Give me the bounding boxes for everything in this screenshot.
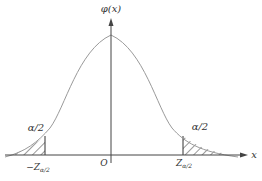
right-cutoff-label: Zα/2: [175, 158, 192, 169]
origin-label: O: [100, 158, 108, 168]
normal-distribution-diagram: φ(x) x O α/2 α/2 −Zα/2 Zα/2: [0, 0, 262, 181]
left-cutoff-label: −Zα/2: [26, 162, 50, 173]
bell-curve: [5, 35, 238, 157]
x-axis-arrow-icon: [240, 153, 248, 158]
y-axis-label: φ(x): [101, 3, 122, 14]
y-axis-arrow-icon: [109, 18, 114, 26]
x-axis-label: x: [251, 149, 257, 160]
left-tail-label: α/2: [28, 122, 44, 133]
left-tail-region: [12, 136, 45, 155]
right-tail-label: α/2: [192, 121, 208, 132]
right-tail-region: [183, 136, 222, 155]
